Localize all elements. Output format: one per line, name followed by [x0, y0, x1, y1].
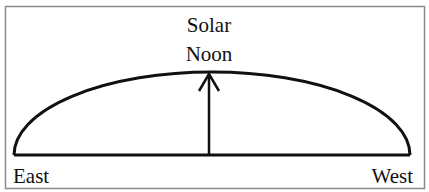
west-label: West — [372, 164, 414, 188]
solar-noon-label-line1: Solar — [187, 13, 231, 37]
east-label: East — [13, 164, 49, 188]
sun-path-diagram: Solar Noon East West — [0, 0, 429, 192]
solar-noon-label-line2: Noon — [186, 42, 233, 66]
